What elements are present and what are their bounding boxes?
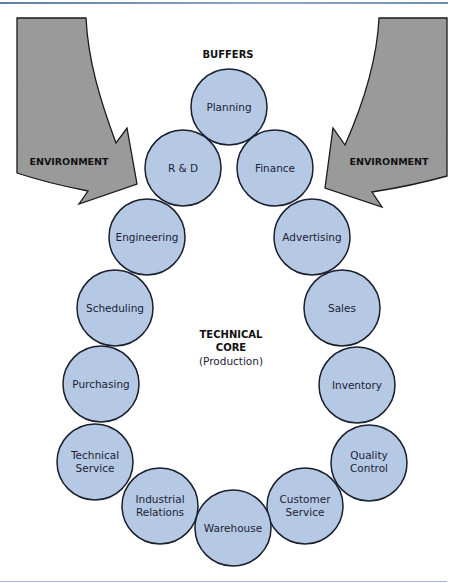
arrow-left-icon	[17, 18, 137, 204]
core-line-3: (Production)	[199, 355, 263, 367]
arrow-right-icon	[325, 18, 447, 207]
node-label: Advertising	[282, 231, 341, 243]
diagram-canvas: ENVIRONMENT ENVIRONMENT BUFFERS TECHNICA…	[0, 0, 458, 583]
node-industrial-relations: Industrial Relations	[122, 468, 198, 544]
node-warehouse: Warehouse	[195, 490, 271, 566]
node-label: Inventory	[332, 379, 382, 391]
node-engineering: Engineering	[109, 199, 185, 275]
node-inventory: Inventory	[319, 347, 395, 423]
core-line-1: TECHNICAL	[200, 329, 264, 340]
buffers-diagram: ENVIRONMENT ENVIRONMENT BUFFERS TECHNICA…	[0, 0, 458, 583]
node-scheduling: Scheduling	[77, 270, 153, 346]
top-rule	[0, 2, 448, 4]
node-technical-service: Technical Service	[57, 424, 133, 500]
node-label: Purchasing	[72, 378, 129, 390]
node-finance: Finance	[237, 130, 313, 206]
technical-core: TECHNICAL CORE (Production)	[199, 329, 263, 367]
node-label: Scheduling	[86, 302, 144, 314]
node-label-line-2: Service	[286, 506, 325, 518]
node-label: Engineering	[116, 231, 179, 243]
bottom-rule	[0, 581, 447, 582]
node-sales: Sales	[304, 270, 380, 346]
node-label-line-1: Industrial	[135, 493, 184, 505]
node-label: Planning	[206, 101, 251, 113]
node-label-line-1: Customer	[279, 493, 331, 505]
node-label: Finance	[255, 162, 295, 174]
node-label-line-2: Control	[350, 462, 388, 474]
node-label-line-1: Quality	[350, 449, 388, 461]
environment-right-label: ENVIRONMENT	[349, 156, 429, 167]
node-customer-service: Customer Service	[267, 468, 343, 544]
node-label-line-2: Relations	[136, 506, 184, 518]
environment-arrow-left: ENVIRONMENT	[17, 18, 137, 204]
node-label: Sales	[328, 302, 356, 314]
node-r-and-d: R & D	[145, 130, 221, 206]
node-label-line-2: Service	[76, 462, 115, 474]
node-purchasing: Purchasing	[63, 346, 139, 422]
node-quality-control: Quality Control	[331, 425, 407, 501]
environment-left-label: ENVIRONMENT	[29, 156, 109, 167]
environment-arrow-right: ENVIRONMENT	[325, 18, 447, 207]
node-planning: Planning	[191, 69, 267, 145]
node-advertising: Advertising	[274, 199, 350, 275]
node-label-line-1: Technical	[70, 449, 119, 461]
node-label: Warehouse	[204, 522, 262, 534]
core-line-2: CORE	[216, 342, 247, 353]
buffers-heading: BUFFERS	[202, 49, 253, 60]
node-label: R & D	[168, 162, 198, 174]
